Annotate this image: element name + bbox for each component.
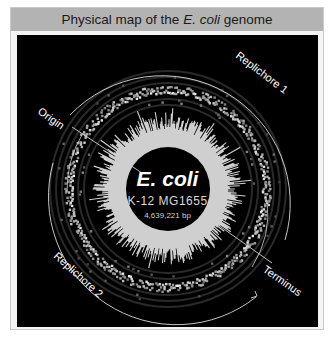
figure-title: Physical map of the E. coli genome (11, 8, 323, 31)
title-suffix: genome (224, 12, 273, 27)
strain-label: K-12 MG1655 (17, 194, 318, 208)
organism-name: E. coli (17, 167, 318, 191)
title-prefix: Physical map of the (62, 12, 180, 27)
genome-size: 4,639,221 bp (17, 211, 318, 220)
terminus-label: Terminus (261, 263, 305, 299)
replichore1-label: Replichore 1 (234, 49, 291, 96)
genome-map: Origin Terminus Replichore 1 Replichore … (17, 35, 318, 327)
figure-panel: Physical map of the E. coli genome Origi… (10, 7, 324, 330)
replichore2-arrowhead (251, 291, 257, 298)
origin-label: Origin (36, 105, 67, 132)
title-italic: E. coli (183, 12, 220, 27)
